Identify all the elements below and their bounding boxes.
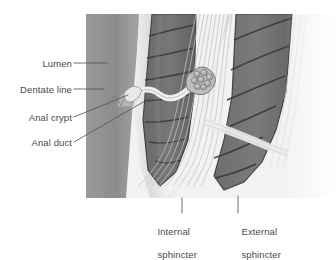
right-fade-overlay xyxy=(286,14,336,198)
label-external-sphincter-line1: External xyxy=(241,226,277,237)
label-internal-sphincter-line1: Internal xyxy=(157,226,190,237)
label-external-sphincter: External sphincter xyxy=(236,214,308,260)
label-anal-crypt: Anal crypt xyxy=(0,112,72,124)
label-anal-duct: Anal duct xyxy=(0,137,72,149)
label-internal-sphincter: Internal sphincter xyxy=(152,214,222,260)
label-internal-sphincter-line2: sphincter xyxy=(157,249,196,260)
label-dentate-line: Dentate line xyxy=(0,84,72,96)
label-lumen: Lumen xyxy=(0,58,72,70)
illustration-panel xyxy=(86,14,336,198)
label-external-sphincter-line2: sphincter xyxy=(241,249,280,260)
